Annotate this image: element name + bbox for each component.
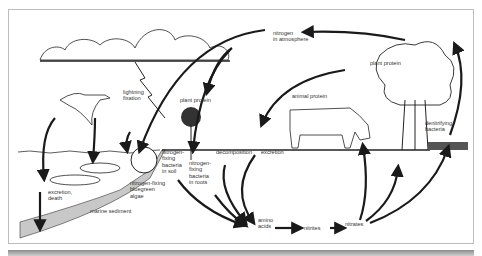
tree-icon: [376, 42, 454, 105]
label-excretion: excretion: [261, 149, 284, 155]
label-denitrifying-bacteria: denitrifying bacteria: [425, 120, 452, 133]
label-bluegreen-algae: nitrogen-fixing bluegreen algae: [130, 180, 165, 199]
fish-icon: [80, 163, 120, 173]
label-nitrites: nitrites: [304, 225, 320, 231]
cow-icon: [290, 108, 370, 148]
label-plant-protein: plant protein: [180, 97, 211, 103]
algae-magnify-icon: [131, 147, 157, 173]
label-marine-sediment: marine sediment: [90, 208, 131, 214]
label-nitrogen-fixing-soil: nitrogen- fixing bacteria in soil: [162, 149, 184, 175]
label-animal-protein: animal protein: [292, 93, 327, 99]
label-plant-protein-tree: plant protein: [370, 60, 401, 66]
nitrogen-cycle-illustration: [0, 0, 482, 256]
label-decomposition: decomposition: [216, 149, 252, 155]
label-amino-acids: amino acids: [258, 217, 273, 230]
label-lightning-fixation: lightning fixation: [123, 89, 144, 102]
label-excretion-death: excretion, death: [48, 189, 72, 202]
bottom-bar: [8, 250, 474, 256]
label-nitrogen-atmosphere: nitrogen in atmosphere: [273, 30, 308, 43]
label-nitrogen-fixing-roots: nitrogen- fixing bacteria in roots: [189, 160, 211, 186]
seabird-icon: [60, 93, 110, 125]
fish-icon: [50, 175, 100, 185]
label-nitrates: nitrates: [345, 221, 363, 227]
